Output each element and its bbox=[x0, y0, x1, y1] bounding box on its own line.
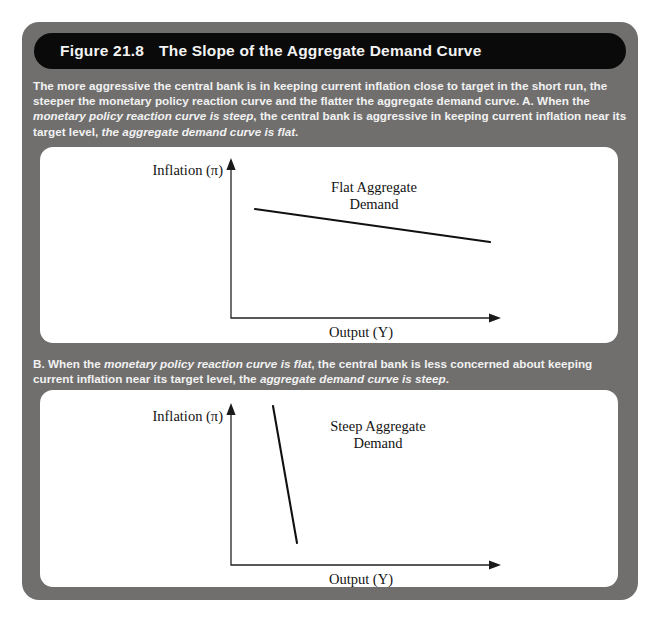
caption-b-italic-2: aggregate demand curve is steep bbox=[260, 372, 446, 385]
x-axis-label-a: Output (Y) bbox=[329, 324, 393, 341]
x-axis-label-b: Output (Y) bbox=[329, 571, 393, 587]
y-axis-label-b: Inflation (π) bbox=[152, 408, 223, 425]
caption-b-italic-1: monetary policy reaction curve is flat bbox=[104, 357, 311, 370]
curve-label-b-line1: Steep Aggregate bbox=[330, 418, 425, 434]
figure-title-text: Figure 21.8The Slope of the Aggregate De… bbox=[60, 33, 482, 69]
caption-a-italic-1: monetary policy reaction curve is steep bbox=[33, 109, 253, 122]
curve-label-a-line1: Flat Aggregate bbox=[331, 179, 417, 195]
chart-panel-b: Inflation (π) Output (Y) Steep Aggregate… bbox=[40, 390, 618, 587]
intro-line-2: steeper the monetary policy reaction cur… bbox=[33, 94, 519, 107]
figure-number-label: Figure 21.8 bbox=[60, 42, 144, 59]
y-axis-label-a: Inflation (π) bbox=[152, 162, 223, 179]
curve-label-a-line2: Demand bbox=[349, 196, 399, 212]
caption-a-suffix: . bbox=[295, 125, 298, 138]
aggregate-demand-curve-b bbox=[273, 406, 297, 543]
y-axis-arrow-b bbox=[226, 403, 235, 415]
intro-line-1: The more aggressive the central bank is … bbox=[33, 79, 607, 92]
figure-title-bar: Figure 21.8The Slope of the Aggregate De… bbox=[34, 33, 626, 69]
figure-title: The Slope of the Aggregate Demand Curve bbox=[159, 42, 481, 59]
caption-panel-a: The more aggressive the central bank is … bbox=[33, 78, 629, 139]
y-axis-arrow-a bbox=[226, 158, 235, 170]
caption-b-prefix: B. When the bbox=[33, 357, 104, 370]
chart-panel-a: Inflation (π) Output (Y) Flat Aggregate … bbox=[40, 147, 618, 343]
caption-panel-b: B. When the monetary policy reaction cur… bbox=[33, 356, 629, 386]
curve-label-b-line2: Demand bbox=[353, 435, 403, 451]
caption-b-suffix: . bbox=[446, 372, 449, 385]
x-axis-arrow-a bbox=[489, 313, 501, 322]
caption-a-italic-2: the aggregate demand curve is flat bbox=[102, 125, 296, 138]
x-axis-arrow-b bbox=[489, 560, 501, 569]
caption-a-prefix: A. When the bbox=[522, 94, 590, 107]
aggregate-demand-curve-a bbox=[255, 209, 490, 242]
figure-root: Figure 21.8The Slope of the Aggregate De… bbox=[0, 0, 658, 624]
